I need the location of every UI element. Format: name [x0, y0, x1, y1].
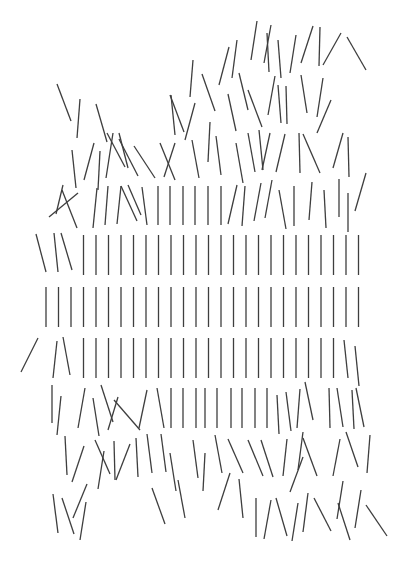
- canvas-background: [0, 0, 406, 563]
- line-grid-artwork: [0, 0, 406, 563]
